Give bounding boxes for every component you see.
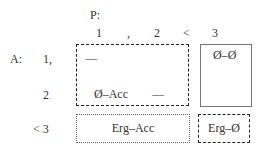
cell-erg-acc: Erg–Acc (112, 121, 154, 136)
a-value-1: 1, (43, 52, 52, 66)
cell-zero-zero: Ø–Ø (213, 48, 236, 62)
cell-dash-mid: — (152, 87, 164, 101)
p-less-than: < (183, 26, 190, 40)
solid-region-right: Ø–Ø (200, 44, 252, 107)
p-value-1: 1 (96, 26, 102, 40)
p-value-2: 2 (154, 26, 160, 40)
p-axis-label: P: (90, 8, 100, 22)
dashed-region-top-left: — Ø–Acc — (76, 44, 189, 106)
p-value-3: 3 (212, 26, 218, 40)
p-comma: , (127, 26, 130, 40)
dotted-region-bottom: Erg–Acc (76, 114, 190, 143)
cell-erg-zero: Erg–Ø (208, 121, 240, 136)
a-value-lt3: < 3 (33, 122, 49, 136)
a-axis-label: A: (10, 52, 22, 66)
dashed-region-bottom-right: Erg–Ø (198, 114, 250, 143)
cell-zero-acc: Ø–Acc (94, 87, 128, 101)
cell-dash-top: — (85, 51, 97, 65)
a-value-2: 2 (43, 88, 49, 102)
